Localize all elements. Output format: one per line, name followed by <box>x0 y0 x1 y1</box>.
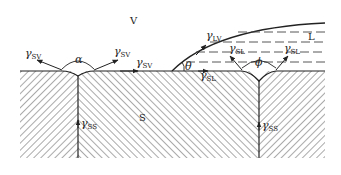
label-alpha: α <box>75 53 83 66</box>
label-gamma-sl-right: γSL <box>284 42 300 56</box>
gamma-sv-left-arrow <box>37 60 62 70</box>
label-gamma-sv-left: γSV <box>25 47 42 61</box>
solid-grain-left <box>20 71 78 158</box>
solid-grain-right <box>259 71 325 158</box>
label-gamma-sl-left: γSL <box>229 42 245 56</box>
solid-grain-middle <box>78 71 259 158</box>
wetting-diagram: V L S γSV γSV γSV γLV γSL γSL γSL γSS γS… <box>0 0 341 175</box>
label-gamma-lv: γLV <box>206 29 222 43</box>
solid-region <box>20 71 325 158</box>
gamma-sv-right-arrow <box>94 60 118 70</box>
gamma-sl-left-arrow <box>230 56 242 70</box>
label-phi: ϕ <box>255 56 263 69</box>
label-gamma-sv-right: γSV <box>114 45 131 59</box>
phase-label-vapor: V <box>129 15 138 26</box>
phase-label-liquid: L <box>308 31 315 42</box>
label-gamma-sv-surface: γSV <box>136 56 153 70</box>
phase-label-solid: S <box>139 112 146 123</box>
label-theta: θ <box>185 60 192 73</box>
gamma-sl-right-arrow <box>276 56 288 70</box>
theta-arc <box>182 62 184 71</box>
gamma-lv-arrow <box>196 45 206 55</box>
